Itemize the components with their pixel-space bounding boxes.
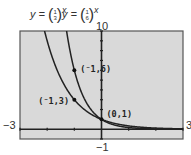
point-label: (⁻1,3) (38, 96, 69, 106)
point-marker (72, 98, 76, 102)
point-marker (72, 68, 76, 72)
point-label: (0,1) (107, 109, 133, 119)
point-label: (⁻1,6) (80, 64, 111, 74)
plot-area: (⁻1,6)(⁻1,3)(0,1) (0, 0, 191, 155)
point-marker (100, 117, 104, 121)
